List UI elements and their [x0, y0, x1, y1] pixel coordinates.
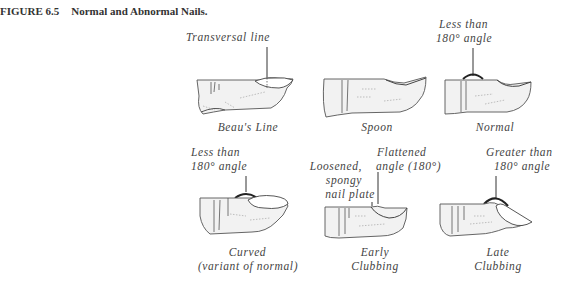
annotation-curved-line2: 180° angle	[191, 159, 247, 173]
figure-number: FIGURE 6.5	[0, 5, 59, 17]
figure-title: Normal and Abnormal Nails.	[71, 5, 207, 17]
annotation-curved-line1: Less than	[191, 145, 240, 159]
caption-spoon: Spoon	[342, 120, 412, 134]
finger-illustration-early-clubbing	[325, 172, 435, 237]
annotation-late-clubbing-line2: 180° angle	[494, 159, 550, 173]
finger-illustration-spoon	[322, 75, 432, 120]
caption-beaus-line: Beau's Line	[208, 120, 288, 134]
annotation-loosened-line1: Loosened,	[300, 159, 362, 173]
annotation-flattened-line2: angle (180°)	[376, 159, 441, 173]
caption-late-clubbing-line2: Clubbing	[458, 259, 538, 273]
caption-late-clubbing-line1: Late	[463, 245, 533, 259]
annotation-normal-line1: Less than	[439, 17, 488, 31]
annotation-late-clubbing-line1: Greater than	[486, 145, 553, 159]
caption-early-clubbing-line1: Early	[335, 245, 415, 259]
finger-illustration-normal	[445, 48, 555, 118]
annotation-normal-line2: 180° angle	[436, 31, 492, 45]
caption-curved-line1: Curved	[210, 245, 285, 259]
annotation-flattened-line1: Flattened	[377, 145, 426, 159]
finger-illustration-late-clubbing	[440, 176, 550, 241]
caption-early-clubbing-line2: Clubbing	[335, 259, 415, 273]
finger-illustration-beaus-line	[195, 40, 305, 115]
figure-caption: FIGURE 6.5Normal and Abnormal Nails.	[0, 4, 208, 18]
caption-normal: Normal	[460, 120, 530, 134]
caption-curved-line2: (variant of normal)	[188, 259, 308, 273]
